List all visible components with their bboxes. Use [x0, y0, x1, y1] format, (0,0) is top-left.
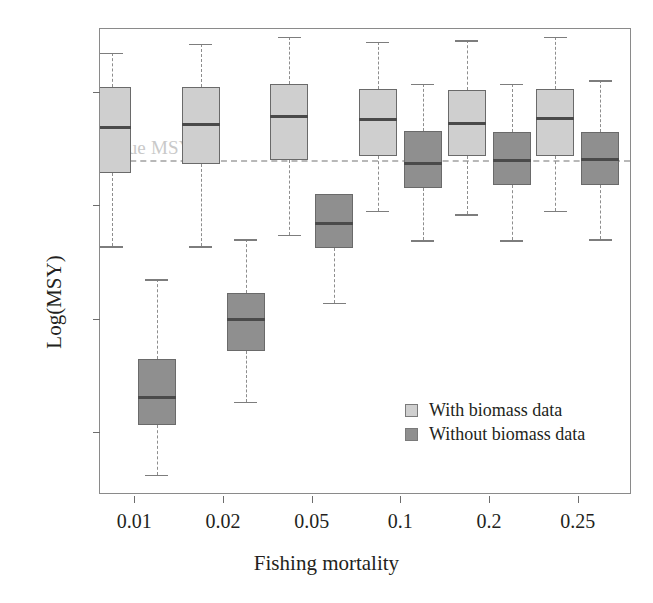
whisker-lower	[157, 425, 158, 475]
x-axis-tick-label: 0.05	[277, 511, 347, 531]
whisker-lower	[555, 156, 556, 211]
whisker-cap-upper	[455, 40, 478, 42]
whisker-cap-lower	[500, 240, 523, 242]
whisker-cap-lower	[544, 211, 567, 213]
legend: With biomass data Without biomass data	[405, 398, 585, 446]
legend-item-without-biomass: Without biomass data	[405, 422, 585, 446]
legend-swatch-light-icon	[405, 404, 418, 417]
whisker-upper	[467, 40, 468, 90]
x-axis-tick-label: 0.02	[188, 511, 258, 531]
box-iqr	[227, 293, 265, 351]
legend-label: Without biomass data	[429, 424, 585, 445]
whisker-cap-upper	[100, 53, 123, 55]
legend-label: With biomass data	[429, 400, 562, 421]
whisker-upper	[555, 37, 556, 89]
median-line	[227, 318, 265, 321]
median-line	[315, 222, 353, 225]
box-iqr	[404, 131, 442, 188]
whisker-cap-upper	[544, 37, 567, 39]
whisker-upper	[246, 239, 247, 292]
whisker-lower	[378, 156, 379, 211]
box-iqr	[270, 84, 308, 160]
x-axis-tick	[134, 496, 135, 503]
x-axis-tick-label: 0.1	[365, 511, 435, 531]
whisker-upper	[201, 44, 202, 87]
x-axis-label: Fishing mortality	[0, 551, 653, 576]
box-iqr	[536, 89, 574, 156]
y-axis-tick	[93, 92, 100, 93]
x-axis-tick-label: 0.25	[543, 511, 613, 531]
whisker-lower	[467, 156, 468, 214]
whisker-cap-lower	[145, 475, 168, 477]
whisker-upper	[423, 84, 424, 132]
median-line	[536, 117, 574, 120]
whisker-cap-upper	[278, 37, 301, 39]
x-axis-tick	[223, 496, 224, 503]
median-line	[404, 162, 442, 165]
box-iqr	[100, 87, 131, 173]
x-axis-tick	[578, 496, 579, 503]
median-line	[138, 396, 176, 399]
true-msy-reference-line	[100, 160, 630, 162]
median-line	[359, 118, 397, 121]
whisker-cap-lower	[323, 303, 346, 305]
whisker-cap-lower	[411, 240, 434, 242]
whisker-lower	[246, 351, 247, 402]
whisker-upper	[112, 53, 113, 87]
whisker-cap-lower	[589, 239, 612, 241]
x-axis-tick	[489, 496, 490, 503]
y-axis-tick	[93, 205, 100, 206]
whisker-cap-lower	[278, 235, 301, 237]
median-line	[493, 159, 531, 162]
whisker-lower	[512, 185, 513, 241]
x-axis-tick-label: 0.2	[454, 511, 524, 531]
whisker-cap-lower	[189, 246, 212, 248]
y-axis-tick	[93, 432, 100, 433]
whisker-cap-upper	[500, 84, 523, 86]
whisker-cap-upper	[145, 279, 168, 281]
whisker-lower	[289, 160, 290, 235]
median-line	[270, 115, 308, 118]
y-axis-tick	[93, 319, 100, 320]
whisker-cap-upper	[589, 80, 612, 82]
x-axis-tick	[312, 496, 313, 503]
whisker-lower	[112, 173, 113, 246]
whisker-lower	[201, 164, 202, 246]
whisker-upper	[157, 279, 158, 359]
median-line	[182, 123, 220, 126]
whisker-lower	[600, 185, 601, 240]
whisker-upper	[378, 42, 379, 90]
box-iqr	[359, 89, 397, 156]
boxplot-figure: Log(MSY) Fishing mortality True MSY −4−5…	[0, 0, 653, 603]
whisker-cap-lower	[366, 211, 389, 213]
y-axis-label: Log(MSY)	[42, 255, 67, 348]
median-line	[100, 126, 131, 129]
whisker-cap-upper	[234, 239, 257, 241]
whisker-cap-lower	[455, 214, 478, 216]
x-axis-tick	[400, 496, 401, 503]
whisker-upper	[512, 84, 513, 133]
legend-item-with-biomass: With biomass data	[405, 398, 585, 422]
whisker-cap-upper	[189, 44, 212, 46]
median-line	[448, 122, 486, 125]
whisker-cap-lower	[100, 246, 123, 248]
whisker-lower	[423, 188, 424, 240]
whisker-upper	[289, 37, 290, 84]
legend-swatch-dark-icon	[405, 428, 418, 441]
whisker-lower	[334, 248, 335, 303]
x-axis-tick-label: 0.01	[99, 511, 169, 531]
whisker-cap-upper	[366, 42, 389, 44]
box-iqr	[138, 359, 176, 425]
median-line	[581, 158, 619, 161]
whisker-upper	[600, 80, 601, 132]
whisker-cap-lower	[234, 402, 257, 404]
whisker-cap-upper	[411, 84, 434, 86]
